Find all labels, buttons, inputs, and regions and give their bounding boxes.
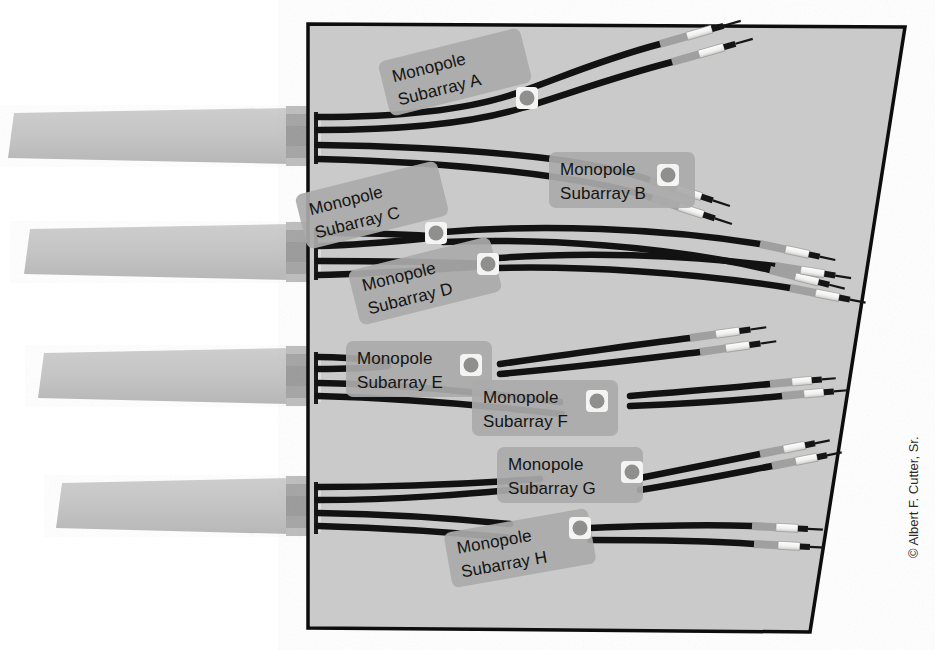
antenna-harness-diagram: Monopole Subarray A Monopole Subarray B … (0, 0, 943, 650)
label-B-line2: Subarray B (560, 184, 646, 203)
grommet-F (586, 390, 608, 412)
grommet-B (657, 164, 679, 186)
illustration-stage: Monopole Subarray A Monopole Subarray B … (0, 0, 943, 650)
waveguide-panel-1 (8, 108, 290, 164)
waveguide-panel-2 (24, 224, 290, 280)
waveguide-panel-3 (38, 348, 290, 404)
label-G-line1: Monopole (508, 455, 583, 474)
grommet-C (425, 222, 447, 244)
copyright-credit: © Albert F. Cutter, Sr. (906, 436, 921, 558)
grommet-A (516, 87, 538, 109)
grommet-H (569, 517, 591, 539)
label-B-line1: Monopole (560, 160, 635, 179)
label-G-line2: Subarray G (508, 479, 596, 498)
waveguide-panels (8, 108, 290, 534)
grommet-E (460, 354, 482, 376)
label-F-line2: Subarray F (483, 412, 568, 431)
waveguide-panel-4 (56, 478, 290, 534)
grommet-G (621, 461, 643, 483)
label-E-line1: Monopole (357, 349, 432, 368)
grommet-D (477, 253, 499, 275)
label-E-line2: Subarray E (357, 373, 443, 392)
cable-H-out-1 (590, 525, 752, 528)
label-F-line1: Monopole (483, 388, 558, 407)
